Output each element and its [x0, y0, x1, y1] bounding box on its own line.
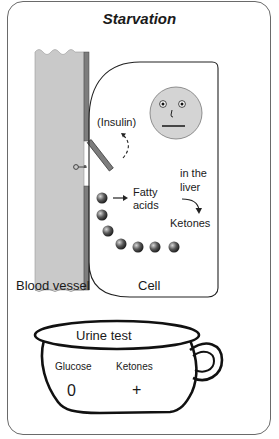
urine-test-title: Urine test: [76, 328, 132, 343]
arrow-right-icon: [113, 195, 128, 201]
in-the-liver-label-1: in the: [180, 167, 207, 179]
insulin-channel-flap: [87, 140, 113, 171]
curved-arrow-icon: [182, 199, 202, 214]
neutral-face-icon: [150, 87, 202, 139]
diagram-title: Starvation: [0, 10, 279, 27]
ketones-value: +: [132, 381, 141, 399]
membrane-upper: [84, 52, 89, 141]
blood-vessel-label: Blood vessel: [16, 278, 90, 293]
in-the-liver-label-2: liver: [180, 181, 200, 193]
diagram-canvas: [0, 0, 279, 439]
ketones-test-label: Ketones: [116, 361, 153, 372]
glucose-value: 0: [67, 382, 76, 400]
glucose-label: Glucose: [55, 361, 92, 372]
fatty-acids-label-1: Fatty: [133, 186, 157, 198]
cell-outline: [89, 62, 218, 297]
dashed-arrow-icon: [121, 133, 128, 158]
fatty-acids-label-2: acids: [133, 199, 159, 211]
ketones-label: Ketones: [170, 217, 210, 229]
membrane-lower: [84, 186, 89, 290]
blood-vessel: [35, 50, 84, 292]
insulin-label: (Insulin): [97, 116, 136, 128]
cell-label: Cell: [138, 278, 160, 293]
